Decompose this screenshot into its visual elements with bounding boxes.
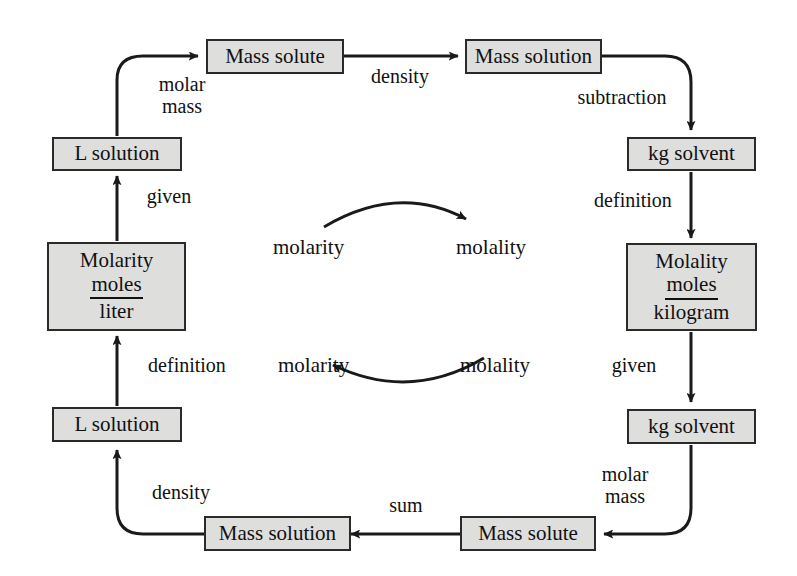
conversion-flow-diagram: Mass solute Mass solution L solution Mol… <box>0 0 797 576</box>
node-numerator: moles <box>665 273 717 299</box>
node-denominator: kilogram <box>654 300 730 325</box>
edge-label-line2: mass <box>162 95 202 117</box>
node-l-solution-upper[interactable]: L solution <box>52 137 182 171</box>
cycle-label-molarity-bottom: molarity <box>278 355 349 376</box>
node-label: L solution <box>75 413 160 437</box>
node-numerator: moles <box>90 273 142 299</box>
edge-label-line2: mass <box>605 485 645 507</box>
node-kg-solvent-lower[interactable]: kg solvent <box>627 409 756 444</box>
node-title: Molarity <box>80 249 154 273</box>
connector-cycle-molarity-to-molality <box>324 203 466 227</box>
node-kg-solvent-upper[interactable]: kg solvent <box>627 137 756 171</box>
cycle-label-molality-bottom: molality <box>460 355 530 376</box>
node-mass-solute-top[interactable]: Mass solute <box>206 39 344 74</box>
node-label: Mass solution <box>475 45 592 69</box>
edge-label-molar-mass-top: molar mass <box>134 74 230 117</box>
edge-label-density-top: density <box>350 66 450 88</box>
node-molality[interactable]: Molality moles kilogram <box>626 243 757 331</box>
cycle-label-molality-top: molality <box>456 237 526 258</box>
edge-label-definition-left: definition <box>131 355 243 377</box>
node-title: Molality <box>655 250 727 274</box>
edge-label-definition-right: definition <box>583 190 683 212</box>
edge-label-line1: molar <box>602 463 649 485</box>
node-label: kg solvent <box>648 142 735 166</box>
node-mass-solution-top[interactable]: Mass solution <box>465 39 602 74</box>
node-denominator: liter <box>100 299 134 324</box>
edge-label-given-right: given <box>598 355 670 377</box>
edge-label-sum: sum <box>370 495 442 517</box>
node-mass-solution-bottom[interactable]: Mass solution <box>204 516 351 551</box>
node-label: Mass solution <box>219 522 336 546</box>
node-label: Mass solute <box>478 522 578 546</box>
node-label: Mass solute <box>225 45 325 69</box>
edge-label-density-bottom: density <box>133 482 229 504</box>
edge-label-given-left: given <box>133 186 205 208</box>
edge-label-subtraction: subtraction <box>561 87 683 109</box>
node-molarity[interactable]: Molarity moles liter <box>47 242 186 331</box>
node-l-solution-lower[interactable]: L solution <box>52 407 182 442</box>
edge-label-line1: molar <box>159 73 206 95</box>
node-label: L solution <box>75 142 160 166</box>
node-mass-solute-bottom[interactable]: Mass solute <box>460 516 596 551</box>
cycle-label-molarity-top: molarity <box>273 237 344 258</box>
node-label: kg solvent <box>648 415 735 439</box>
edge-label-molar-mass-bottom: molar mass <box>577 464 673 507</box>
